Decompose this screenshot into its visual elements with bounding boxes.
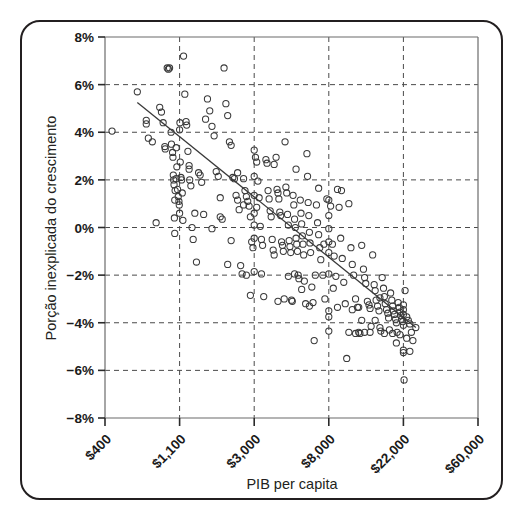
data-point [349,307,355,313]
data-point [240,176,246,182]
y-tick-label: 6% [74,78,94,93]
data-point [171,215,177,221]
data-point [333,273,339,279]
data-point [199,179,205,185]
data-point [346,329,352,335]
data-point [297,197,303,203]
data-point [298,210,304,216]
data-point [341,279,347,285]
data-point [299,286,305,292]
data-point [250,245,256,251]
x-tick-label: $3,000 [224,432,264,472]
data-point [316,232,322,238]
data-point [284,211,290,217]
data-point [407,348,413,354]
data-point [182,91,188,97]
data-point [342,301,348,307]
data-point [344,355,350,361]
data-point [275,190,281,196]
data-point [331,253,337,259]
data-point [145,135,151,141]
data-point [389,297,395,303]
y-tick-label: 4% [74,125,94,140]
data-point [300,241,306,247]
data-point [301,278,307,284]
data-point [362,274,368,280]
data-point [228,238,234,244]
y-tick-label: 2% [74,173,94,188]
data-point [316,185,322,191]
data-point [266,196,272,202]
data-point [258,271,264,277]
data-point [301,252,307,258]
data-point [279,242,285,248]
x-tick-label: $400 [82,432,114,464]
data-point [330,285,336,291]
data-point [258,236,264,242]
data-point [221,65,227,71]
data-point [276,196,282,202]
data-point [173,145,179,151]
data-point [235,170,241,176]
data-point [273,154,279,160]
data-points [109,53,419,383]
data-point [304,151,310,157]
data-point [184,122,190,128]
data-point [338,187,344,193]
data-point [223,101,229,107]
data-point [339,255,345,261]
data-point [314,220,320,226]
data-point [209,226,215,232]
data-point [153,220,159,226]
data-point [269,236,275,242]
data-point [192,210,198,216]
data-point [255,178,261,184]
data-point [311,338,317,344]
data-point [209,123,215,129]
data-point [321,241,327,247]
data-point [309,284,315,290]
data-point [401,377,407,383]
data-point [291,216,297,222]
data-point [294,241,300,247]
data-point [322,296,328,302]
data-point [360,266,366,272]
data-point [393,340,399,346]
trend-line-segment [137,102,416,327]
data-point [282,139,288,145]
data-point [259,242,265,248]
data-point [201,211,207,217]
data-point [281,296,287,302]
data-point [306,229,312,235]
data-point [271,161,277,167]
data-point [211,133,217,139]
data-point [383,307,389,313]
y-tick-label: 0% [74,221,94,236]
data-point [193,259,199,265]
data-point [247,292,253,298]
x-tick-label: $1,100 [149,432,189,472]
y-tick-label: −2% [67,268,94,283]
data-point [185,148,191,154]
y-tick-label: −8% [67,411,94,426]
data-point [367,305,373,311]
data-point [264,160,270,166]
data-point [247,214,253,220]
data-point [293,235,299,241]
x-tick-label: $8,000 [298,432,338,472]
data-point [328,203,334,209]
data-point [368,323,374,329]
data-point [304,173,310,179]
data-point [380,285,386,291]
data-point [379,274,385,280]
y-tick-label: −6% [67,363,94,378]
data-point [225,261,231,267]
data-point [202,116,208,122]
data-point [404,335,410,341]
y-tick-labels: 8%6%4%2%0%−2%−4%−6%−8% [67,30,94,426]
data-point [261,293,267,299]
data-point [268,214,274,220]
data-point [188,183,194,189]
data-point [359,242,365,248]
data-point [291,202,297,208]
